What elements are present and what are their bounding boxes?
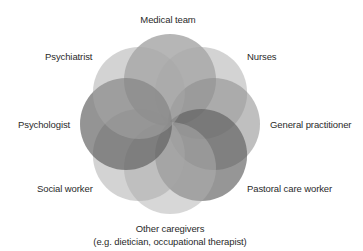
- label-medical-team: Medical team: [140, 14, 195, 25]
- label-pastoral-care-worker: Pastoral care worker: [247, 183, 332, 194]
- circle-psychiatrist: [93, 47, 185, 139]
- label-psychiatrist: Psychiatrist: [45, 51, 92, 62]
- circle-group: [80, 34, 260, 214]
- label-social-worker: Social worker: [37, 183, 93, 194]
- label-psychologist: Psychologist: [18, 119, 70, 130]
- label-other-caregivers: Other caregivers: [136, 223, 205, 234]
- label-other-caregivers-examples: (e.g. dietician, occupational therapist): [93, 236, 246, 247]
- label-general-practitioner: General practitioner: [270, 119, 351, 130]
- label-nurses: Nurses: [247, 51, 277, 62]
